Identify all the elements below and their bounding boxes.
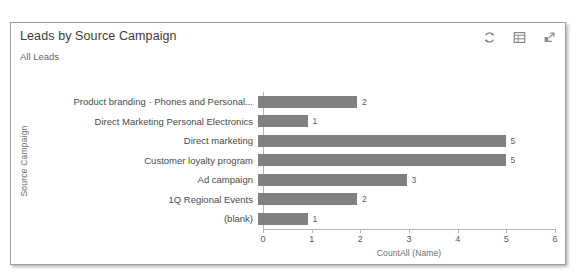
x-axis-tick [555, 229, 556, 233]
bar-category-label: 1Q Regional Events [33, 194, 258, 205]
bar-category-label: Direct marketing [33, 135, 258, 146]
pop-out-button[interactable] [540, 28, 559, 47]
screenshot-root: Leads by Source Campaign All Leads [0, 0, 578, 280]
card-header: Leads by Source Campaign All Leads [11, 23, 565, 69]
header-actions [480, 28, 559, 47]
x-axis: 0123456 [263, 229, 555, 230]
x-axis-tick [360, 229, 361, 233]
bar-row[interactable]: Product branding · Phones and Personal..… [33, 92, 555, 112]
page-title: Leads by Source Campaign [20, 29, 177, 43]
bar[interactable] [258, 193, 357, 205]
y-axis-title: Source Campaign [17, 111, 31, 211]
refresh-icon [483, 31, 496, 44]
bar-category-label: (blank) [33, 213, 258, 224]
x-axis-tick-label: 2 [358, 234, 363, 244]
bar-category-label: Direct Marketing Personal Electronics [33, 116, 258, 127]
bar-row[interactable]: Direct Marketing Personal Electronics1 [33, 112, 555, 132]
bar-holder: 2 [258, 190, 555, 210]
x-axis-tick-label: 1 [309, 234, 314, 244]
bar[interactable] [258, 174, 407, 186]
bar-value-label: 2 [362, 194, 367, 204]
bar-value-label: 5 [511, 155, 516, 165]
refresh-button[interactable] [480, 28, 499, 47]
x-axis-tick-label: 0 [260, 234, 265, 244]
pop-out-icon [543, 31, 556, 44]
x-axis-title: CountAll (Name) [263, 248, 555, 258]
y-axis-title-label: Source Campaign [19, 125, 29, 196]
x-axis-tick [409, 229, 410, 233]
x-axis-tick [506, 229, 507, 233]
bar-row[interactable]: (blank)1 [33, 209, 555, 229]
show-as-table-button[interactable] [510, 28, 529, 47]
x-axis-tick-label: 4 [455, 234, 460, 244]
bar-holder: 5 [258, 151, 555, 171]
bar-value-label: 1 [313, 214, 318, 224]
bar-category-label: Ad campaign [33, 174, 258, 185]
bar-row[interactable]: Ad campaign3 [33, 170, 555, 190]
bar-holder: 5 [258, 131, 555, 151]
x-axis-tick [312, 229, 313, 233]
bar[interactable] [258, 154, 506, 166]
chart-card: Leads by Source Campaign All Leads [10, 22, 566, 265]
bar-rows: Product branding · Phones and Personal..… [33, 92, 555, 229]
bar-value-label: 2 [362, 97, 367, 107]
x-axis-tick [458, 229, 459, 233]
bar-value-label: 1 [313, 116, 318, 126]
plot-area: Product branding · Phones and Personal..… [33, 69, 555, 266]
bar-row[interactable]: Direct marketing5 [33, 131, 555, 151]
bar-category-label: Product branding · Phones and Personal..… [33, 96, 258, 107]
bar[interactable] [258, 213, 308, 225]
show-as-table-icon [513, 31, 526, 44]
chart-area: Source Campaign Product branding · Phone… [11, 69, 565, 266]
bar[interactable] [258, 115, 308, 127]
x-axis-tick-label: 6 [552, 234, 557, 244]
bar-holder: 2 [258, 92, 555, 112]
bar[interactable] [258, 135, 506, 147]
card-subtitle: All Leads [20, 51, 59, 62]
bar-value-label: 5 [511, 136, 516, 146]
bar-holder: 1 [258, 209, 555, 229]
bar-holder: 1 [258, 112, 555, 132]
bar-row[interactable]: 1Q Regional Events2 [33, 190, 555, 210]
bar-value-label: 3 [412, 175, 417, 185]
x-axis-tick-label: 3 [406, 234, 411, 244]
bar[interactable] [258, 96, 357, 108]
x-axis-tick-label: 5 [504, 234, 509, 244]
x-axis-tick [263, 229, 264, 233]
bar-holder: 3 [258, 170, 555, 190]
bar-row[interactable]: Customer loyalty program5 [33, 151, 555, 171]
bar-category-label: Customer loyalty program [33, 155, 258, 166]
